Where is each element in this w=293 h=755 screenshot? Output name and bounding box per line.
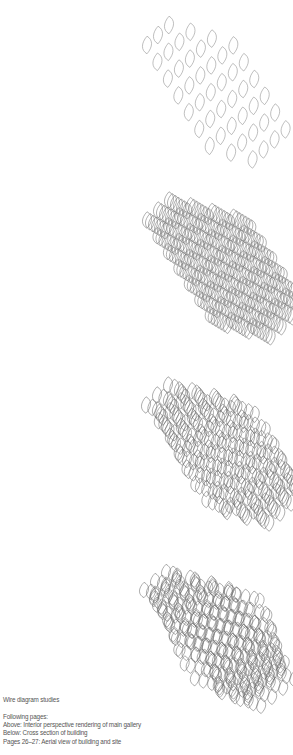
caption-line-pages: Pages 26–27: Aerial view of building and… xyxy=(3,738,203,746)
caption-spacer xyxy=(3,704,203,713)
figure-caption: Wire diagram studies Following pages: Ab… xyxy=(3,696,203,746)
wire-diagram-illustrations xyxy=(0,0,293,755)
caption-line-below: Below: Cross section of building xyxy=(3,729,203,737)
wire-diagram-1 xyxy=(142,16,290,168)
caption-following-label: Following pages: xyxy=(3,713,203,721)
wire-diagram-figure xyxy=(0,0,293,755)
wire-diagram-4 xyxy=(139,564,293,713)
caption-line-above: Above: Interior perspective rendering of… xyxy=(3,721,203,729)
wire-diagram-2 xyxy=(142,192,293,345)
caption-title: Wire diagram studies xyxy=(3,696,203,704)
wire-diagram-3 xyxy=(141,377,293,532)
